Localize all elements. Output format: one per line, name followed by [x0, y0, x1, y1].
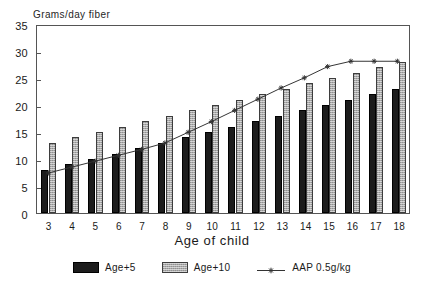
bar-age-5-age-7	[135, 148, 142, 213]
bar-age-10-age-18	[399, 62, 406, 213]
y-tick-mark	[37, 53, 41, 54]
legend-entry-aap-0-5g-kg[interactable]: AAP 0.5g/kg	[256, 262, 351, 273]
y-tick-mark	[37, 134, 41, 135]
bar-age-5-age-16	[345, 100, 352, 213]
aap-marker-age-15	[325, 64, 330, 69]
legend-entry-age-5[interactable]: Age+5	[73, 262, 136, 273]
bar-age-5-age-14	[299, 110, 306, 213]
aap-marker-age-14	[302, 75, 307, 80]
y-tick-label: 30	[0, 47, 28, 59]
bar-age-10-age-13	[283, 89, 290, 213]
bar-age-5-age-18	[392, 89, 399, 213]
bar-age-5-age-11	[228, 127, 235, 213]
bar-age-10-age-7	[142, 121, 149, 213]
bar-age-10-age-8	[166, 116, 173, 213]
y-tick-mark	[37, 188, 41, 189]
y-tick-mark	[37, 107, 41, 108]
aap-marker-age-17	[372, 59, 377, 64]
y-tick-label: 15	[0, 128, 28, 140]
x-tick-label: 14	[294, 221, 318, 232]
bar-age-10-age-17	[376, 67, 383, 213]
x-tick-label: 15	[317, 221, 341, 232]
x-tick-label: 6	[107, 221, 131, 232]
legend-label: AAP 0.5g/kg	[292, 262, 351, 273]
bar-age-5-age-10	[205, 132, 212, 213]
x-tick-label: 3	[37, 221, 61, 232]
y-axis-title: Grams/day fiber	[33, 9, 110, 20]
x-axis-title: Age of child	[0, 233, 424, 248]
bar-age-5-age-13	[275, 116, 282, 213]
light-bar-swatch-icon	[162, 262, 188, 273]
bar-age-10-age-10	[212, 105, 219, 213]
bar-age-10-age-14	[306, 83, 313, 213]
bar-age-10-age-5	[96, 132, 103, 213]
y-tick-label: 5	[0, 182, 28, 194]
x-tick-label: 5	[83, 221, 107, 232]
x-tick-label: 9	[177, 221, 201, 232]
bar-age-10-age-11	[236, 100, 243, 213]
x-tick-label: 12	[247, 221, 271, 232]
bar-age-5-age-15	[322, 105, 329, 213]
x-tick-label: 11	[224, 221, 248, 232]
x-tick-label: 16	[341, 221, 365, 232]
x-tick-label: 18	[387, 221, 411, 232]
bar-age-10-age-9	[189, 110, 196, 213]
dark-bar-swatch-icon	[73, 262, 99, 273]
aap-marker-age-16	[348, 59, 353, 64]
x-tick-label: 13	[270, 221, 294, 232]
y-tick-label: 25	[0, 74, 28, 86]
chart-legend: Age+5Age+10AAP 0.5g/kg	[0, 262, 424, 273]
line-star-swatch-icon	[256, 262, 286, 273]
bar-age-5-age-3	[41, 170, 48, 213]
y-tick-label: 0	[0, 209, 28, 221]
bar-age-10-age-6	[119, 127, 126, 213]
bar-age-10-age-12	[259, 94, 266, 213]
y-tick-mark	[37, 161, 41, 162]
bar-age-5-age-12	[252, 121, 259, 213]
y-tick-label: 10	[0, 155, 28, 167]
x-tick-label: 7	[130, 221, 154, 232]
bar-age-10-age-15	[329, 78, 336, 213]
fiber-recommendation-chart: Grams/day fiber 05101520253035 345678910…	[0, 0, 424, 294]
bar-age-5-age-17	[369, 94, 376, 213]
y-tick-label: 20	[0, 101, 28, 113]
bar-age-5-age-8	[158, 143, 165, 213]
x-tick-label: 10	[200, 221, 224, 232]
legend-label: Age+5	[105, 262, 136, 273]
x-tick-label: 8	[154, 221, 178, 232]
legend-label: Age+10	[194, 262, 231, 273]
bar-age-5-age-9	[182, 137, 189, 213]
bar-age-5-age-6	[112, 154, 119, 213]
plot-area: 05101520253035 3456789101112131415161718	[36, 25, 410, 214]
legend-entry-age-10[interactable]: Age+10	[162, 262, 231, 273]
plot-inner: 05101520253035 3456789101112131415161718	[37, 26, 409, 213]
bar-age-5-age-5	[88, 159, 95, 213]
bar-age-10-age-4	[72, 137, 79, 213]
bar-age-5-age-4	[65, 164, 72, 213]
bar-age-10-age-3	[49, 143, 56, 213]
y-tick-mark	[37, 80, 41, 81]
x-tick-label: 17	[364, 221, 388, 232]
x-tick-label: 4	[60, 221, 84, 232]
y-tick-label: 35	[0, 20, 28, 32]
bar-age-10-age-16	[353, 73, 360, 213]
